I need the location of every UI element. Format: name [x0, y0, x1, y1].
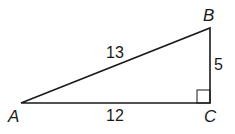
triangle-diagram: A B C 13 12 5: [0, 0, 235, 134]
right-angle-marker: [197, 90, 210, 103]
side-label-ab: 13: [106, 44, 124, 61]
vertex-label-c: C: [204, 107, 217, 126]
vertex-label-b: B: [203, 6, 214, 25]
side-label-bc: 5: [214, 56, 223, 73]
vertex-label-a: A: [7, 107, 19, 126]
side-label-ac: 12: [106, 107, 124, 124]
triangle-abc: [21, 28, 210, 103]
